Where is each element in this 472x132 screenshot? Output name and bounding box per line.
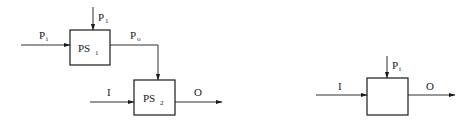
signal-p-param: P i (387, 56, 401, 78)
block-ps1-label: PS (78, 42, 90, 54)
block-process (367, 78, 408, 115)
signal-p-1-label: P (98, 11, 104, 23)
block-ps1: PS 1 (70, 30, 110, 65)
signal-p-in-subscript: i (46, 35, 48, 43)
signal-right-output: O (408, 80, 455, 95)
signal-p-1-subscript: 1 (105, 17, 109, 25)
signal-right-input-label: I (338, 80, 342, 92)
left-diagram: PS 1 P i P 1 P o PS 2 I (21, 7, 222, 115)
arrow-down-icon (110, 45, 158, 80)
signal-p-out-label: P (130, 29, 136, 41)
block-ps1-subscript: 1 (95, 49, 99, 57)
signal-p-in: P i (21, 29, 70, 45)
signal-output: O (175, 86, 222, 102)
signal-p-param-subscript: i (399, 65, 401, 73)
signal-p-out: P o (110, 29, 158, 80)
block-ps2-subscript: 2 (160, 99, 164, 107)
signal-p-out-subscript: o (137, 35, 141, 43)
block-diagram: PS 1 P i P 1 P o PS 2 I (0, 0, 472, 132)
signal-p-param-label: P (392, 59, 398, 71)
signal-output-label: O (194, 86, 202, 98)
block-ps2: PS 2 (134, 80, 175, 115)
signal-input-label: I (107, 86, 111, 98)
right-diagram: P i I O (316, 56, 455, 115)
signal-right-input: I (316, 80, 367, 95)
block-ps2-label: PS (143, 92, 155, 104)
signal-p-in-label: P (39, 29, 45, 41)
signal-right-output-label: O (426, 80, 434, 92)
signal-p-1: P 1 (93, 7, 109, 30)
signal-input: I (90, 86, 134, 102)
